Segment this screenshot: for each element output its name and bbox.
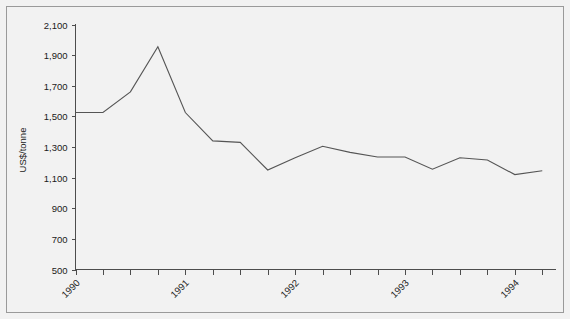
y-tick-label: 2,100 bbox=[44, 20, 68, 31]
y-tick-label: 900 bbox=[52, 203, 68, 214]
y-tick-label: 500 bbox=[52, 265, 68, 276]
y-tick-label: 1,900 bbox=[44, 50, 68, 61]
y-tick-label: 1,500 bbox=[44, 111, 68, 122]
y-tick-label: 1,700 bbox=[44, 81, 68, 92]
line-chart-canvas: 5007009001,1001,3001,5001,7001,9002,100 … bbox=[0, 0, 570, 319]
y-tick-label: 700 bbox=[52, 234, 68, 245]
y-axis-title: US$/tonne bbox=[17, 128, 28, 173]
line-chart-container: 5007009001,1001,3001,5001,7001,9002,100 … bbox=[0, 0, 570, 319]
y-tick-label: 1,300 bbox=[44, 142, 68, 153]
y-tick-label: 1,100 bbox=[44, 173, 68, 184]
